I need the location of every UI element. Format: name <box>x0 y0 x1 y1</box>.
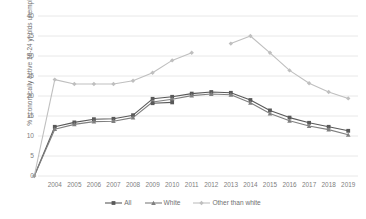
chart-legend: AllWhiteOther than white <box>0 199 366 207</box>
legend-item-other-than-white[interactable]: Other than white <box>193 199 260 207</box>
plot-area <box>0 0 366 219</box>
series-line-all <box>34 90 350 176</box>
legend-item-all[interactable]: All <box>105 199 131 207</box>
legend-marker-icon <box>145 199 162 207</box>
legend-marker-icon <box>193 199 210 207</box>
legend-label: White <box>164 200 181 207</box>
legend-label: All <box>124 200 131 207</box>
gridlines <box>38 16 358 176</box>
line-chart: % economically active 16-24 yr olds unem… <box>0 0 366 219</box>
legend-label: Other than white <box>212 200 260 207</box>
series-line-white <box>34 92 350 176</box>
series-segment-all-stub <box>151 101 174 106</box>
series-line-other-than-white <box>34 34 350 176</box>
legend-marker-icon <box>105 199 122 207</box>
legend-item-white[interactable]: White <box>145 199 181 207</box>
